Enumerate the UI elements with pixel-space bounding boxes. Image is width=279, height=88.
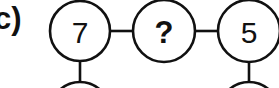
- panel-label: c): [0, 1, 22, 36]
- node-value-middle-unknown: ?: [155, 15, 174, 50]
- node-value-left: 7: [72, 16, 89, 49]
- child-node-left-partial: [50, 82, 110, 88]
- number-circle-chain-diagram: c) 7 ? 5: [0, 0, 279, 88]
- child-node-right-partial: [219, 82, 279, 88]
- node-value-right: 5: [241, 16, 258, 49]
- diagram-canvas: c) 7 ? 5: [0, 0, 279, 88]
